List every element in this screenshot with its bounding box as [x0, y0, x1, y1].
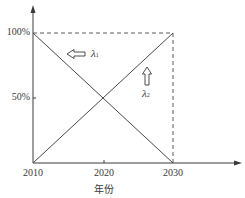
x-tick-label-2010: 2010 [23, 167, 43, 178]
series-label-lambda2: λ2 [142, 87, 150, 99]
up-arrow-icon [143, 67, 152, 85]
y-axis-arrow-icon [31, 5, 36, 13]
lambda2-subscript: 2 [147, 92, 150, 98]
series-label-lambda1: λ1 [91, 47, 99, 59]
y-tick-label-50: 50% [3, 91, 30, 102]
x-axis-arrow-icon [234, 161, 242, 166]
y-tick-label-100: 100% [3, 26, 30, 37]
x-axis-title: 年份 [94, 181, 114, 196]
x-tick-label-2030: 2030 [163, 167, 183, 178]
left-arrow-icon [67, 50, 85, 59]
x-tick-label-2020: 2020 [94, 167, 114, 178]
lambda1-subscript: 1 [96, 52, 99, 58]
